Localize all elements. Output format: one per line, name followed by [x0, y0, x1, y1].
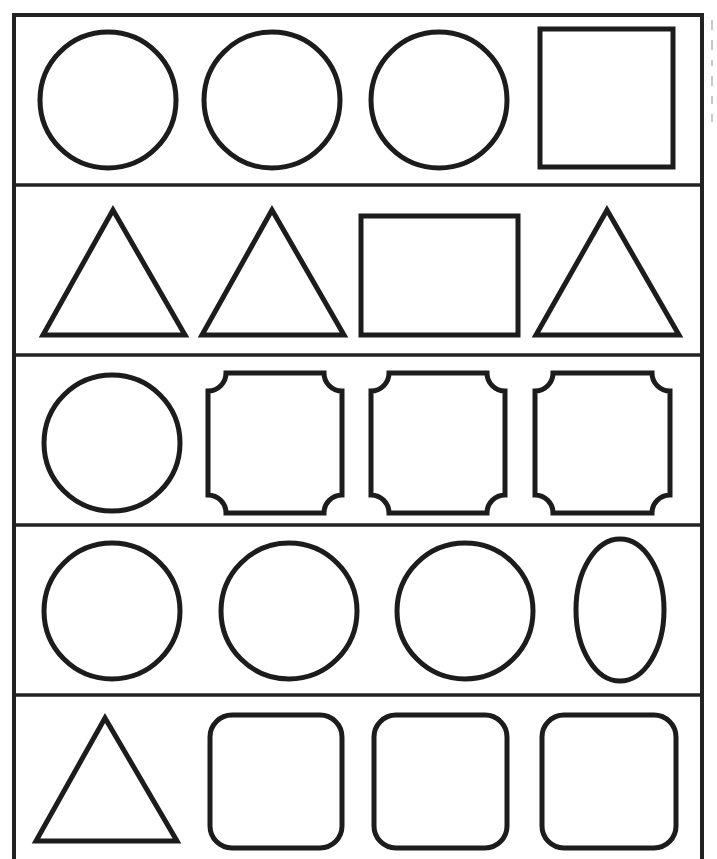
circle-shape [371, 32, 507, 168]
worksheet [0, 0, 717, 859]
shape-row-3 [44, 373, 670, 513]
rounded-square-shape [542, 715, 676, 848]
notched-square-shape [535, 373, 670, 513]
circle-shape [397, 543, 533, 679]
worksheet-canvas [0, 0, 717, 859]
ellipse-shape [576, 539, 664, 681]
shape-row-5 [36, 715, 676, 848]
circle-shape [204, 32, 340, 168]
shape-row-2 [43, 210, 679, 335]
circle-shape [221, 543, 357, 679]
triangle-shape [36, 718, 177, 841]
notched-square-shape [208, 373, 342, 513]
shape-rows [36, 29, 679, 848]
triangle-shape [536, 210, 679, 335]
triangle-shape [43, 210, 185, 335]
notched-square-shape [371, 373, 505, 513]
circle-shape [40, 32, 176, 168]
rounded-square-shape [374, 715, 507, 848]
rounded-square-shape [210, 715, 342, 848]
worksheet-frame [14, 15, 702, 859]
rectangle-shape [361, 216, 518, 335]
square-shape [540, 29, 673, 167]
circle-shape [44, 375, 180, 511]
shape-row-4 [44, 539, 664, 681]
frame-border [14, 15, 702, 859]
circle-shape [44, 543, 180, 679]
shape-row-1 [40, 29, 673, 168]
triangle-shape [202, 210, 344, 335]
